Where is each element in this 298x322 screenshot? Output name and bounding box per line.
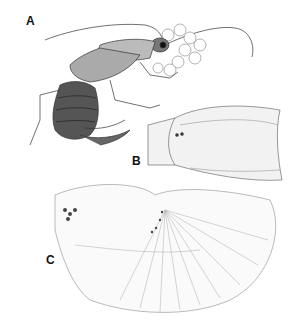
panel-label-b: B: [132, 154, 141, 168]
forewing-illustration: [148, 106, 282, 180]
panel-label-a: A: [26, 14, 35, 28]
hindwing-illustration: [55, 184, 276, 312]
figure: A B C: [0, 0, 298, 322]
panel-label-c: C: [46, 253, 55, 267]
illustration: [0, 0, 298, 322]
